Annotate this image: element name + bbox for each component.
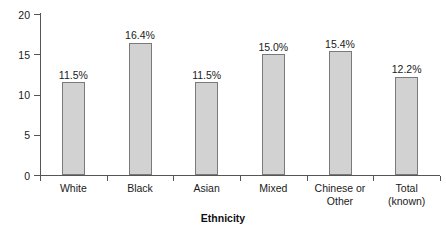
x-tick-mark bbox=[107, 176, 108, 181]
x-tick-mark bbox=[173, 176, 174, 181]
bar-value-label: 11.5% bbox=[59, 70, 88, 81]
x-category-label: Total (known) bbox=[373, 182, 440, 207]
y-tick-label: 20 bbox=[18, 9, 30, 20]
y-tick-label: 15 bbox=[18, 50, 30, 61]
bar-value-label: 12.2% bbox=[392, 64, 422, 75]
x-category-label: Mixed bbox=[240, 182, 307, 195]
x-axis-title: Ethnicity bbox=[0, 212, 446, 224]
bar: 12.2% bbox=[395, 77, 418, 175]
bar-value-label: 15.4% bbox=[325, 39, 355, 50]
y-tick-label: 0 bbox=[24, 170, 30, 181]
bar-value-label: 15.0% bbox=[258, 42, 288, 53]
bar: 15.4% bbox=[329, 51, 352, 175]
bar: 11.5% bbox=[195, 82, 218, 175]
bar-chart: 05101520 11.5%16.4%11.5%15.0%15.4%12.2% … bbox=[0, 0, 446, 239]
bar: 16.4% bbox=[129, 43, 152, 175]
x-category-label: Chinese or Other bbox=[307, 182, 374, 207]
x-category-label: Asian bbox=[173, 182, 240, 195]
plot-area: 11.5%16.4%11.5%15.0%15.4%12.2% bbox=[40, 14, 440, 175]
bar: 15.0% bbox=[262, 54, 285, 175]
x-tick-mark bbox=[40, 176, 41, 181]
x-category-label: Black bbox=[107, 182, 174, 195]
x-tick-mark bbox=[373, 176, 374, 181]
x-tick-mark bbox=[307, 176, 308, 181]
y-tick-label: 10 bbox=[18, 90, 30, 101]
y-tick-label: 5 bbox=[24, 130, 30, 141]
x-tick-mark bbox=[440, 176, 441, 181]
x-category-label: White bbox=[40, 182, 107, 195]
bar-value-label: 16.4% bbox=[125, 30, 155, 41]
bar-value-label: 11.5% bbox=[192, 70, 221, 81]
x-tick-mark bbox=[240, 176, 241, 181]
bar: 11.5% bbox=[62, 82, 85, 175]
